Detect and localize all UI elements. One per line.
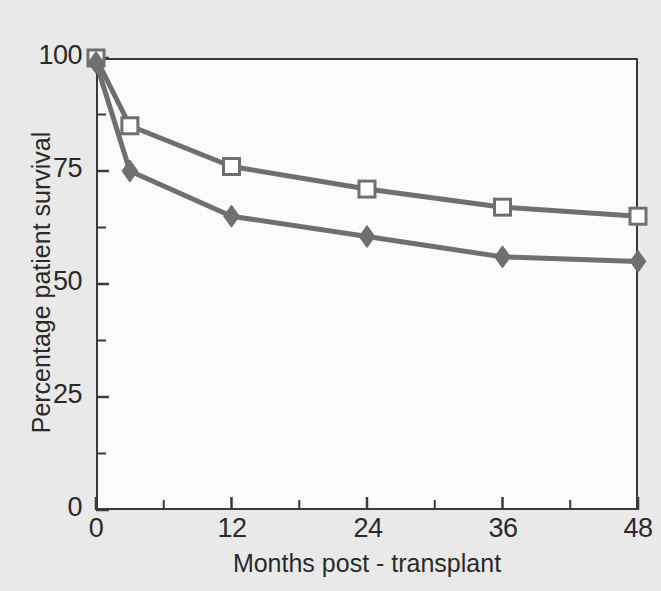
xtick-label-24: 24	[333, 513, 403, 544]
xtick-label-36: 36	[468, 513, 538, 544]
xtick-label-12: 12	[197, 513, 267, 544]
xtick-label-0: 0	[61, 513, 131, 544]
x-axis-title: Months post - transplant	[96, 549, 638, 578]
y-axis-title: Percentage patient survival	[27, 123, 56, 443]
plot-area	[96, 58, 638, 510]
xtick-label-48: 48	[603, 513, 661, 544]
ytick-label-100: 100	[12, 40, 82, 71]
chart-figure: 100 75 50 25 0 0 12 24 36 48 Percentage …	[0, 0, 661, 591]
